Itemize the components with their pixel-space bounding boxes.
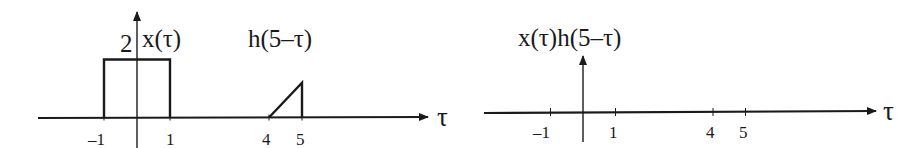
left-x-axis (38, 117, 428, 118)
right-x-axis (484, 111, 876, 113)
x-tau-label: x(τ) (142, 25, 181, 53)
left-tick-label-neg1: –1 (87, 130, 105, 148)
h-shift-label: h(5–τ) (248, 25, 312, 53)
convolution-figure: τ 2 x(τ) h(5–τ) –1 1 4 5 τ x(τ)h(5–τ) –1… (0, 0, 921, 148)
left-tick-label-5: 5 (296, 130, 305, 148)
right-tick-label-5: 5 (739, 123, 748, 142)
left-tau-axis-label: τ (437, 102, 448, 132)
right-tick-label-1: 1 (609, 123, 618, 142)
left-panel: τ 2 x(τ) h(5–τ) –1 1 4 5 (38, 12, 448, 148)
left-marks (104, 60, 302, 121)
left-tick-label-4: 4 (262, 130, 271, 148)
right-tick-label-neg1: –1 (532, 123, 550, 142)
left-tick-label-1: 1 (166, 130, 175, 148)
h-shift-ramp-signal (269, 83, 302, 118)
right-tau-axis-label: τ (883, 96, 894, 126)
right-tick-label-4: 4 (706, 123, 715, 142)
right-panel: τ x(τ)h(5–τ) –1 1 4 5 (484, 24, 894, 142)
amplitude-label: 2 (120, 30, 133, 57)
product-label: x(τ)h(5–τ) (518, 24, 621, 52)
